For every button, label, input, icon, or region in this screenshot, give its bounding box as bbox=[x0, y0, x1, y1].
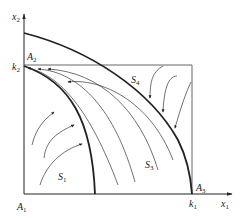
trajectory bbox=[44, 125, 74, 158]
s1-label: S1 bbox=[58, 171, 67, 184]
trajectory bbox=[28, 68, 118, 185]
k1-label: k1 bbox=[189, 198, 197, 211]
trajectory bbox=[163, 76, 177, 112]
k2-label: k2 bbox=[12, 61, 20, 74]
a3-label: A3 bbox=[195, 182, 206, 195]
a2-label: A2 bbox=[26, 51, 37, 64]
trajectory bbox=[68, 82, 173, 160]
s3-label: S3 bbox=[145, 159, 154, 172]
trajectory bbox=[150, 66, 163, 98]
trajectory bbox=[32, 112, 54, 145]
trajectory bbox=[48, 69, 158, 170]
phase-diagram: x2 x1 k2 k1 A1 A2 A3 S1 S3 S4 bbox=[0, 0, 241, 219]
boundary-s4 bbox=[24, 33, 192, 194]
s4-label: S4 bbox=[131, 74, 140, 87]
y-axis-label: x2 bbox=[11, 11, 20, 24]
trajectory bbox=[38, 69, 135, 182]
a1-label: A1 bbox=[16, 201, 27, 214]
x-axis-label: x1 bbox=[220, 198, 229, 211]
trajectory bbox=[175, 82, 191, 128]
